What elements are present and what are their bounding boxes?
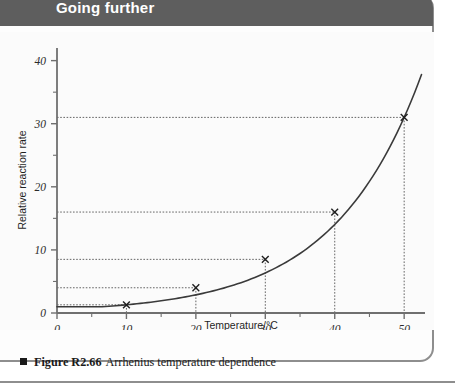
- y-tick-label: 0: [40, 307, 46, 319]
- figure-number: Figure R2.66: [34, 355, 101, 369]
- header-banner: Going further: [0, 0, 433, 26]
- y-axis-title: Relative reaction rate: [16, 130, 28, 229]
- bottom-divider: [0, 381, 455, 383]
- x-tick-label: 10: [121, 323, 133, 330]
- figure-caption: Figure R2.66Arrhenius temperature depend…: [0, 355, 455, 377]
- y-tick-label: 40: [35, 55, 47, 67]
- y-tick-label: 10: [35, 244, 47, 256]
- x-tick-label: 0: [54, 323, 60, 330]
- figure-card: Going further 01020304050010203040 Tem: [0, 0, 455, 388]
- x-tick-label: 40: [329, 323, 341, 330]
- figure-caption-text: Arrhenius temperature dependence: [105, 355, 276, 369]
- y-tick-label: 20: [35, 181, 47, 193]
- x-tick-label: 50: [398, 323, 410, 330]
- x-tick-label: 20: [190, 323, 202, 330]
- page-title: Going further: [56, 0, 154, 16]
- arrhenius-chart-svg: 01020304050010203040 Temperature/°C Rela…: [0, 32, 434, 330]
- chart-plot-area: 01020304050010203040 Temperature/°C Rela…: [0, 32, 434, 330]
- square-bullet-icon: [20, 358, 27, 365]
- x-axis-title: Temperature/°C: [204, 319, 278, 330]
- y-tick-label: 30: [34, 118, 47, 130]
